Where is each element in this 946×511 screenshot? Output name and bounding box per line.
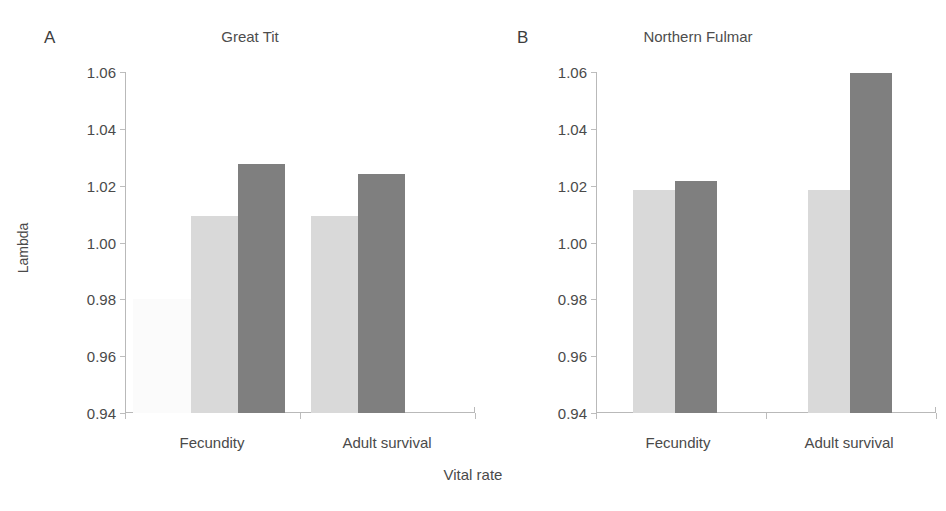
y-tick-label: 1.04 bbox=[558, 120, 587, 137]
panel-a-title: Great Tit bbox=[170, 28, 330, 45]
x-category-label: Fecundity bbox=[179, 434, 244, 451]
x-category-label: Fecundity bbox=[645, 434, 710, 451]
y-tick-mark bbox=[591, 243, 596, 244]
x-tick-mark bbox=[596, 413, 597, 419]
panel-b-title: Northern Fulmar bbox=[583, 28, 813, 45]
panel-a-great-tit: A Great Tit 1.061.041.021.000.980.960.94… bbox=[0, 0, 480, 511]
bar-fecundity-s2 bbox=[633, 190, 675, 413]
panel-b-letter: B bbox=[517, 28, 528, 48]
x-tick-mark bbox=[766, 413, 767, 419]
y-tick-label: 1.00 bbox=[87, 234, 116, 251]
bar-adultsurvival-s3 bbox=[850, 73, 892, 413]
bar-adultsurvival-s3 bbox=[358, 174, 405, 413]
y-tick-label: 1.02 bbox=[558, 177, 587, 194]
bar-fecundity-s3 bbox=[238, 164, 285, 413]
y-tick-label: 0.98 bbox=[87, 291, 116, 308]
y-tick-mark bbox=[591, 299, 596, 300]
y-tick-label: 1.04 bbox=[87, 120, 116, 137]
bar-fecundity-s1 bbox=[133, 299, 191, 413]
y-tick-label: 1.00 bbox=[558, 234, 587, 251]
y-tick-mark bbox=[591, 186, 596, 187]
y-tick-mark bbox=[591, 356, 596, 357]
bar-adultsurvival-s2 bbox=[808, 190, 850, 413]
bar-fecundity-s3 bbox=[675, 181, 717, 413]
y-tick-label: 0.98 bbox=[558, 291, 587, 308]
x-category-label: Adult survival bbox=[804, 434, 893, 451]
y-tick-mark bbox=[120, 186, 125, 187]
y-tick-label: 0.96 bbox=[87, 348, 116, 365]
panel-b-plot-area: 1.061.041.021.000.980.960.94 FecundityAd… bbox=[596, 72, 936, 413]
y-tick-label: 0.94 bbox=[558, 405, 587, 422]
x-tick-mark bbox=[125, 413, 126, 419]
y-tick-mark bbox=[591, 129, 596, 130]
y-tick-label: 1.02 bbox=[87, 177, 116, 194]
y-tick-mark bbox=[120, 129, 125, 130]
y-tick-mark bbox=[120, 72, 125, 73]
y-axis-title: Lambda bbox=[15, 223, 31, 274]
y-tick-label: 1.06 bbox=[87, 64, 116, 81]
y-tick-mark bbox=[120, 243, 125, 244]
x-tick-mark bbox=[300, 413, 301, 419]
panel-a-letter: A bbox=[44, 28, 55, 48]
bar-adultsurvival-s2 bbox=[311, 216, 358, 413]
panel-a-plot-area: 1.061.041.021.000.980.960.94 FecundityAd… bbox=[125, 72, 475, 413]
x-tick-mark bbox=[936, 413, 937, 419]
y-tick-label: 1.06 bbox=[558, 64, 587, 81]
y-tick-label: 0.96 bbox=[558, 348, 587, 365]
y-tick-label: 0.94 bbox=[87, 405, 116, 422]
y-tick-mark bbox=[120, 356, 125, 357]
y-tick-mark bbox=[591, 72, 596, 73]
panel-a-y-axis-line bbox=[125, 72, 126, 413]
y-tick-mark bbox=[120, 299, 125, 300]
panel-b-y-axis-line bbox=[596, 72, 597, 413]
x-axis-title: Vital rate bbox=[0, 466, 946, 483]
x-category-label: Adult survival bbox=[342, 434, 431, 451]
figure-lambda-vital-rate: A Great Tit 1.061.041.021.000.980.960.94… bbox=[0, 0, 946, 511]
bar-fecundity-s2 bbox=[191, 216, 238, 413]
x-tick-mark bbox=[475, 413, 476, 419]
